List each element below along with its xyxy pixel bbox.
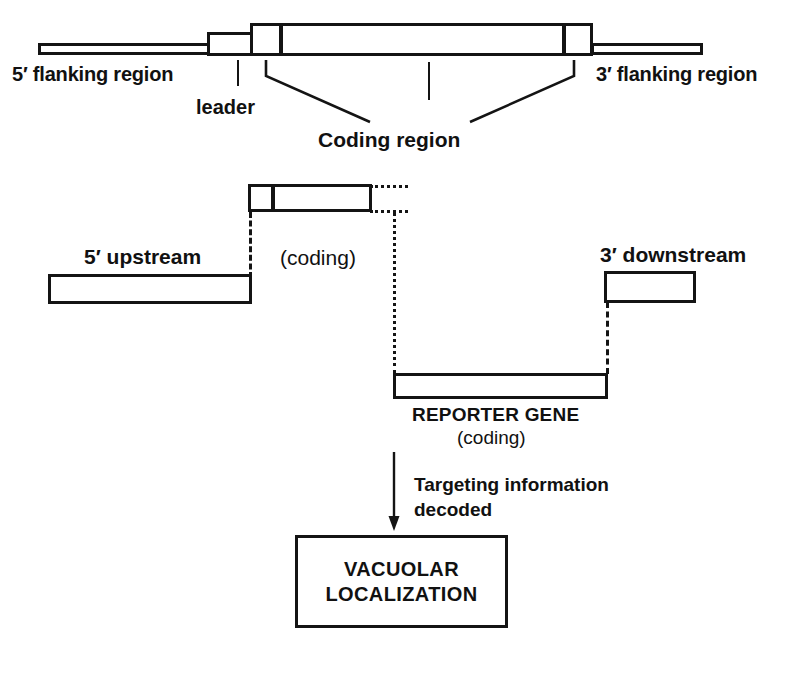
downstream-connector-dashed: [606, 302, 609, 374]
coding-start-box: [250, 23, 282, 56]
targeting-information-line2: decoded: [414, 499, 492, 520]
vacuolar-localization-box: [295, 535, 508, 628]
reporter-gene-label: REPORTER GENE: [412, 404, 579, 425]
construct-coding-label: (coding): [280, 246, 356, 270]
five-prime-flanking-bar: [38, 43, 214, 55]
vacuolar-localization-line1: VACUOLAR: [295, 558, 508, 580]
vacuolar-localization-line2: LOCALIZATION: [295, 583, 508, 605]
five-prime-upstream-box: [48, 274, 252, 304]
leader-label: leader: [196, 96, 255, 118]
reporter-gene-box: [393, 373, 608, 399]
upstream-connector-dashed: [249, 212, 252, 278]
coding-region-box: [280, 23, 565, 56]
reporter-coding-label: (coding): [457, 427, 526, 448]
reporter-connector-dotted: [393, 212, 396, 374]
targeting-arrow: [383, 452, 405, 532]
coding-end-box: [563, 23, 593, 56]
leader-box: [207, 32, 253, 56]
targeting-information-line1: Targeting information: [414, 474, 609, 495]
coding-region-bracket: [255, 60, 585, 132]
construct-coding-top-dots: [370, 185, 408, 188]
figure-canvas: 5′ flanking region 3′ flanking region le…: [0, 0, 799, 674]
three-prime-flanking-label: 3′ flanking region: [596, 63, 757, 85]
leader-tick: [237, 60, 239, 86]
five-prime-flanking-label: 5′ flanking region: [12, 63, 173, 85]
construct-coding-bottom-dots: [370, 210, 408, 213]
five-prime-upstream-label: 5′ upstream: [84, 245, 201, 269]
construct-coding-bar: [272, 184, 372, 212]
three-prime-downstream-box: [604, 271, 696, 303]
coding-region-label: Coding region: [318, 128, 460, 152]
construct-leader-box: [248, 184, 274, 212]
three-prime-downstream-label: 3′ downstream: [600, 243, 746, 267]
three-prime-flanking-bar: [591, 43, 703, 55]
